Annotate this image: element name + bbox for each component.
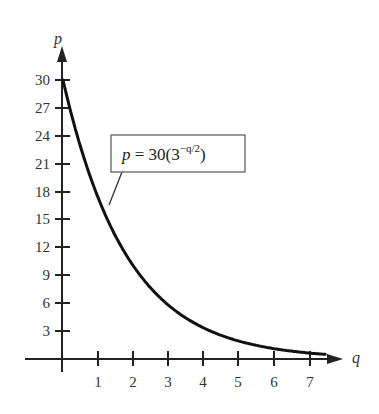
chart-canvas: p q 3 6 9 12 15 18 21 24 27 30 1 2 <box>0 0 379 414</box>
svg-text:30: 30 <box>35 72 50 88</box>
svg-text:2: 2 <box>129 374 137 390</box>
svg-text:1: 1 <box>94 374 102 390</box>
y-axis-arrow-icon <box>57 46 67 62</box>
svg-text:3: 3 <box>43 323 51 339</box>
svg-text:5: 5 <box>234 374 242 390</box>
x-axis-arrow-icon <box>327 354 343 364</box>
svg-text:6: 6 <box>43 295 51 311</box>
y-tick-labels: 3 6 9 12 15 18 21 24 27 30 <box>35 72 51 339</box>
svg-text:24: 24 <box>35 128 51 144</box>
svg-text:7: 7 <box>306 374 314 390</box>
svg-text:9: 9 <box>43 267 51 283</box>
svg-text:3: 3 <box>164 374 172 390</box>
svg-text:4: 4 <box>199 374 207 390</box>
exponential-decay-curve <box>63 80 325 354</box>
annotation-leader-line <box>109 172 122 205</box>
x-tick-labels: 1 2 3 4 5 6 7 <box>94 374 314 390</box>
svg-text:21: 21 <box>35 156 50 172</box>
svg-text:18: 18 <box>35 184 50 200</box>
svg-text:27: 27 <box>35 100 51 116</box>
x-axis-label: q <box>352 349 360 367</box>
y-axis-label: p <box>53 30 62 48</box>
svg-text:12: 12 <box>35 239 50 255</box>
svg-text:15: 15 <box>35 211 50 227</box>
svg-text:6: 6 <box>270 374 278 390</box>
